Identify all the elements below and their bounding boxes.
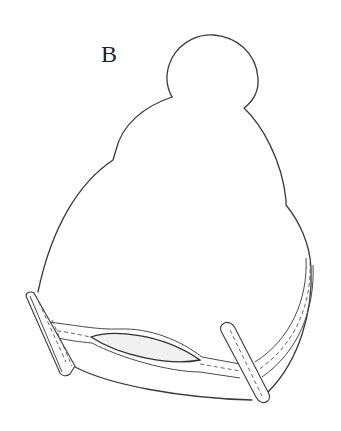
hat-drawing — [0, 0, 341, 431]
right-tab — [221, 322, 270, 402]
brim-opening — [91, 334, 200, 362]
brim-bottom-outline — [75, 367, 252, 400]
brim-right-inner-edge — [255, 258, 306, 362]
hat-illustration: B — [0, 0, 341, 431]
hat-left-outline — [38, 97, 172, 292]
